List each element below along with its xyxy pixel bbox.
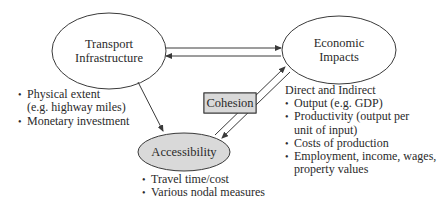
- list-item: Physical extent: [18, 88, 129, 101]
- accessibility-measures-list: Travel time/cost Various nodal measures: [142, 173, 265, 200]
- list-item: Output (e.g. GDP): [285, 97, 436, 110]
- list-item: Productivity (output per: [285, 110, 436, 123]
- list-item: Monetary investment: [18, 115, 129, 128]
- list-item-continuation: (e.g. highway miles): [18, 101, 129, 114]
- economic-impacts-list: Output (e.g. GDP) Productivity (output p…: [285, 97, 436, 177]
- list-item-continuation: property values: [285, 163, 436, 176]
- accessibility-label: Accessibility: [134, 145, 234, 159]
- transport-label-line1: Transport: [59, 37, 159, 51]
- economic-label-line1: Economic: [289, 36, 389, 50]
- transport-label-line2: Infrastructure: [59, 51, 159, 65]
- list-item: Travel time/cost: [142, 173, 265, 186]
- diagram: Transport Infrastructure Economic Impact…: [0, 0, 438, 200]
- list-item: Employment, income, wages,: [285, 150, 436, 163]
- list-item: Various nodal measures: [142, 186, 265, 199]
- list-item: Costs of production: [285, 137, 436, 150]
- arrow-transport-to-accessibility: [138, 82, 163, 131]
- transport-infrastructure-label: Transport Infrastructure: [59, 37, 159, 65]
- list-item-continuation: unit of input): [285, 124, 436, 137]
- cohesion-label: Cohesion: [204, 96, 256, 110]
- economic-impacts-label: Economic Impacts: [289, 36, 389, 64]
- transport-measures-list: Physical extent (e.g. highway miles) Mon…: [18, 88, 129, 128]
- economic-label-line2: Impacts: [289, 50, 389, 64]
